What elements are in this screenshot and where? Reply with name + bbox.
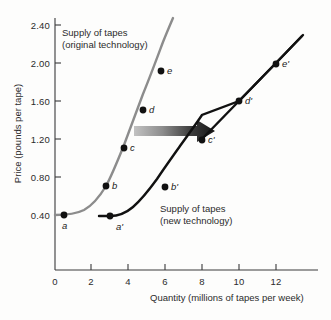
y-tick-label-2-40: 2.40 (22, 20, 50, 31)
y-tick-label-2-00: 2.00 (22, 58, 50, 69)
x-tick-label-10: 10 (230, 276, 248, 287)
data-points-original (61, 68, 165, 219)
x-tick-label-8: 8 (193, 276, 211, 287)
data-point-d (140, 107, 147, 114)
y-axis-ticks (55, 25, 61, 215)
x-axis-title: Quantity (millions of tapes per week) (150, 292, 304, 303)
data-point-a-prime (107, 213, 114, 220)
data-point-b (103, 183, 110, 190)
series-label-new: Supply of tapes (new technology) (160, 203, 232, 226)
x-tick-label-6: 6 (156, 276, 174, 287)
y-axis-title: Price (pounds per tape) (12, 69, 23, 199)
data-point-c-prime (199, 137, 206, 144)
x-tick-label-0: 0 (46, 276, 64, 287)
x-tick-label-12: 12 (267, 276, 285, 287)
point-label-e-prime: e' (282, 58, 289, 69)
supply-curve-chart: 2.40 2.00 1.60 1.20 0.80 0.40 0 2 4 6 8 … (0, 0, 331, 320)
y-tick-label-1-60: 1.60 (22, 96, 50, 107)
series-label-original-line1: Supply of tapes (62, 27, 148, 39)
x-tick-label-4: 4 (119, 276, 137, 287)
chart-canvas (0, 0, 331, 320)
series-label-original-line2: (original technology) (62, 39, 148, 51)
data-point-b-prime (162, 184, 169, 191)
point-label-c-prime: c' (208, 134, 215, 145)
x-axis-ticks (91, 264, 276, 270)
point-label-b: b (112, 180, 117, 191)
data-point-d-prime (236, 98, 243, 105)
point-label-d: d (149, 104, 154, 115)
series-label-new-line1: Supply of tapes (160, 203, 232, 215)
series-label-new-line2: (new technology) (160, 215, 232, 227)
x-tick-label-2: 2 (82, 276, 100, 287)
point-label-a: a (62, 220, 67, 231)
point-label-a-prime: a' (116, 221, 123, 232)
y-tick-label-0-80: 0.80 (22, 172, 50, 183)
data-point-e (158, 68, 165, 75)
supply-curve-new-upper-segment (202, 35, 303, 139)
data-point-c (121, 145, 128, 152)
point-label-b-prime: b' (171, 181, 178, 192)
y-tick-label-1-20: 1.20 (22, 134, 50, 145)
data-point-e-prime (273, 61, 280, 68)
point-label-e: e (167, 65, 172, 76)
y-tick-label-0-40: 0.40 (22, 210, 50, 221)
data-point-a (61, 212, 68, 219)
point-label-c: c (130, 142, 135, 153)
point-label-d-prime: d' (245, 95, 252, 106)
series-label-original: Supply of tapes (original technology) (62, 27, 148, 50)
axes (55, 18, 318, 270)
